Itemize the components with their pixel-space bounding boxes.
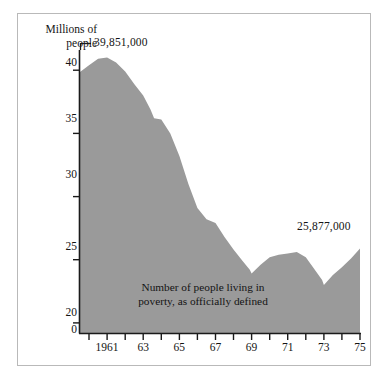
y-axis-title-leader: [81, 43, 92, 50]
poverty-area-chart: Millions of people 40 35 30 25 20 0 1961…: [0, 0, 389, 383]
in-chart-caption-line2: poverty, as officially defined: [113, 295, 293, 309]
in-chart-caption-line1: Number of people living in: [113, 281, 293, 295]
chart-page: Millions of people 40 35 30 25 20 0 1961…: [0, 0, 389, 383]
chart-canvas: [0, 0, 389, 383]
x-tick-marks: [89, 334, 360, 340]
in-chart-caption: Number of people living in poverty, as o…: [113, 281, 293, 308]
